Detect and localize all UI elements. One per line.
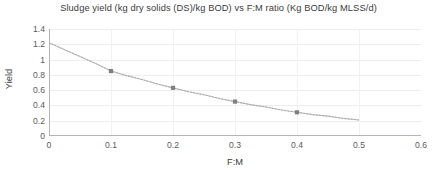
x-tick-label: 0.4 — [291, 141, 303, 150]
x-tick-label: 0.5 — [353, 141, 365, 150]
x-tick-label: 0.6 — [415, 141, 427, 150]
x-tick-label: 0.1 — [105, 141, 117, 150]
y-axis-title: Yield — [4, 59, 14, 99]
x-axis-tick-labels: 0 0.1 0.2 0.3 0.4 0.5 0.6 — [0, 0, 437, 183]
x-tick-label: 0.2 — [167, 141, 179, 150]
x-tick-label: 0 — [47, 141, 52, 150]
chart-container: Sludge yield (kg dry solids (DS)/kg BOD)… — [0, 0, 437, 183]
x-axis-title: F:M — [49, 157, 421, 167]
x-tick-label: 0.3 — [229, 141, 241, 150]
